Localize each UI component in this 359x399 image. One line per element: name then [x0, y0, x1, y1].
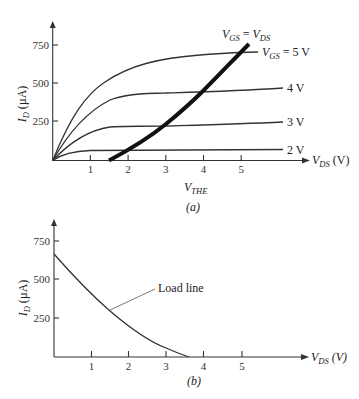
label-vgs-2v: 2 V: [287, 143, 305, 157]
label-vthe: VTHE: [184, 180, 208, 196]
x-tick-label-3-b: 3: [163, 360, 169, 372]
x-tick-label-1-a: 1: [88, 163, 94, 175]
label-vgs-3v: 3 V: [287, 115, 305, 129]
y-tick-label-750-b: 750: [34, 235, 51, 247]
figure: 750 500 250 1 2 3 4 5 ID (µA) VDS (V) VG…: [0, 0, 359, 399]
y-axis-label-b: ID (µA): [16, 280, 32, 318]
label-vgs-4v: 4 V: [287, 81, 305, 95]
x-tick-label-3-a: 3: [163, 163, 169, 175]
load-line-leader: [110, 289, 155, 310]
curve-vgs-3v: [53, 122, 283, 161]
curve-vgs-2v: [53, 150, 283, 161]
y-axis-arrow-a: [50, 21, 56, 28]
x-axis-arrow-a: [302, 158, 310, 164]
x-axis-label-b: VDS (V): [311, 350, 347, 366]
x-tick-label-2-a: 2: [125, 163, 131, 175]
label-vgs-5v: VGS = 5 V: [262, 45, 310, 61]
y-axis-arrow-b: [51, 219, 57, 226]
panel-b: 750 500 250 1 2 3 4 5 ID (µA) VDS (V) Lo…: [16, 219, 347, 388]
x-tick-label-4-b: 4: [201, 360, 207, 372]
y-axis-label-a: ID (µA): [15, 86, 31, 124]
panel-a: 750 500 250 1 2 3 4 5 ID (µA) VDS (V) VG…: [15, 21, 349, 214]
y-tick-label-500-a: 500: [33, 77, 50, 89]
label-load-line: Load line: [158, 281, 204, 295]
y-tick-label-250-b: 250: [34, 312, 51, 324]
curve-vgs-eq-vds: [109, 44, 249, 161]
x-tick-label-4-a: 4: [201, 163, 207, 175]
x-tick-label-5-a: 5: [238, 163, 244, 175]
x-tick-label-1-b: 1: [89, 360, 95, 372]
x-axis-label-a: VDS (V): [312, 153, 349, 169]
x-tick-label-5-b: 5: [239, 360, 245, 372]
load-line: [54, 254, 189, 357]
y-tick-label-750-a: 750: [33, 39, 50, 51]
y-tick-label-250-a: 250: [33, 115, 50, 127]
label-vgs-eq-vds: VGS = VDS: [222, 27, 271, 43]
x-axis-arrow-b: [301, 354, 309, 360]
caption-a: (a): [186, 200, 200, 214]
y-tick-label-500-b: 500: [34, 273, 51, 285]
x-tick-label-2-b: 2: [126, 360, 132, 372]
caption-b: (b): [187, 374, 201, 388]
